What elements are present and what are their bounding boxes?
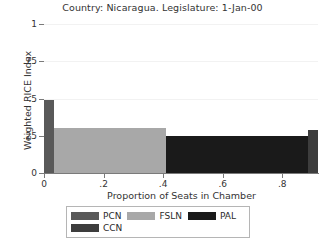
legend-label: FSLN bbox=[159, 211, 181, 221]
bar-ccn bbox=[308, 130, 318, 173]
x-tick-mark bbox=[223, 174, 224, 178]
legend-label: CCN bbox=[103, 223, 122, 233]
x-tick-label: .2 bbox=[99, 179, 108, 189]
legend-row: CCN bbox=[71, 222, 245, 234]
legend-label: PCN bbox=[103, 211, 121, 221]
gridline bbox=[44, 99, 318, 100]
legend-row: PCNFSLNPAL bbox=[71, 210, 245, 222]
y-tick-label: 1 bbox=[31, 19, 37, 29]
x-tick-label: .4 bbox=[159, 179, 168, 189]
legend-label: PAL bbox=[220, 211, 236, 221]
gridline bbox=[44, 61, 318, 62]
legend-swatch-ccn bbox=[71, 224, 99, 232]
legend-item-fsln[interactable]: FSLN bbox=[127, 211, 181, 221]
x-tick-label: 0 bbox=[41, 179, 47, 189]
x-axis-line bbox=[44, 173, 319, 174]
chart-legend: PCNFSLNPALCCN bbox=[66, 206, 250, 238]
legend-item-ccn[interactable]: CCN bbox=[71, 223, 122, 233]
legend-swatch-pal bbox=[188, 212, 216, 220]
x-tick-mark bbox=[44, 174, 45, 178]
plot-area bbox=[44, 24, 318, 173]
x-tick-mark bbox=[282, 174, 283, 178]
y-tick-label: .75 bbox=[23, 56, 37, 66]
bar-pal bbox=[166, 136, 307, 173]
bar-pcn bbox=[44, 100, 54, 173]
legend-swatch-pcn bbox=[71, 212, 99, 220]
legend-item-pcn[interactable]: PCN bbox=[71, 211, 121, 221]
y-tick-label: .25 bbox=[23, 131, 37, 141]
legend-swatch-fsln bbox=[127, 212, 155, 220]
y-tick-label: 0 bbox=[31, 168, 37, 178]
bar-fsln bbox=[54, 128, 166, 173]
y-tick-label: .5 bbox=[28, 94, 37, 104]
legend-item-pal[interactable]: PAL bbox=[188, 211, 236, 221]
chart-title: Country: Nicaragua. Legislature: 1-Jan-0… bbox=[0, 2, 325, 13]
x-tick-mark bbox=[163, 174, 164, 178]
x-axis-title: Proportion of Seats in Chamber bbox=[44, 190, 319, 201]
x-tick-label: .6 bbox=[218, 179, 227, 189]
x-tick-mark bbox=[104, 174, 105, 178]
x-tick-label: .8 bbox=[278, 179, 287, 189]
gridline bbox=[44, 24, 318, 25]
chart-figure: Country: Nicaragua. Legislature: 1-Jan-0… bbox=[0, 0, 325, 242]
